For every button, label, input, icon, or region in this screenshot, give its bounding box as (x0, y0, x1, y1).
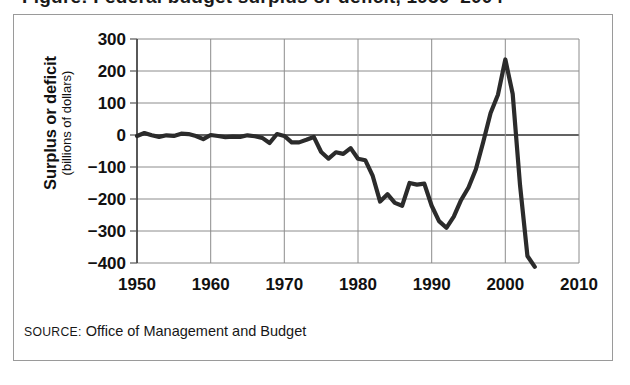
y-axis-tick-marks (130, 39, 137, 263)
x-tick-1950: 1950 (118, 275, 156, 294)
y-tick-0: 0 (117, 126, 126, 145)
y-tick-300: 300 (98, 30, 126, 49)
figure-title-strip: Figure: Federal budget surplus or defici… (0, 0, 630, 14)
y-tick-neg400: −400 (88, 254, 126, 273)
chart-plot-area: 300 200 100 0 −100 −200 −300 −400 1950 1… (14, 15, 614, 325)
x-tick-1970: 1970 (265, 275, 303, 294)
y-tick-neg100: −100 (88, 158, 126, 177)
source-keyword: SOURCE: (24, 325, 82, 339)
figure-frame: Surplus or deficit (billions of dollars) (13, 14, 613, 361)
y-tick-neg300: −300 (88, 222, 126, 241)
vertical-gridlines (137, 39, 579, 263)
x-tick-2000: 2000 (486, 275, 524, 294)
x-tick-1990: 1990 (413, 275, 451, 294)
x-tick-1980: 1980 (339, 275, 377, 294)
source-note: SOURCE: Office of Management and Budget (24, 323, 306, 339)
x-tick-1960: 1960 (192, 275, 230, 294)
x-tick-2010: 2010 (560, 275, 598, 294)
y-axis-tick-labels: 300 200 100 0 −100 −200 −300 −400 (88, 30, 126, 273)
x-axis-tick-labels: 1950 1960 1970 1980 1990 2000 2010 (118, 275, 598, 294)
source-body: Office of Management and Budget (82, 323, 307, 339)
y-tick-neg200: −200 (88, 190, 126, 209)
y-tick-200: 200 (98, 62, 126, 81)
y-tick-100: 100 (98, 94, 126, 113)
surplus-deficit-line (137, 59, 535, 266)
figure-title: Figure: Federal budget surplus or defici… (22, 0, 503, 8)
